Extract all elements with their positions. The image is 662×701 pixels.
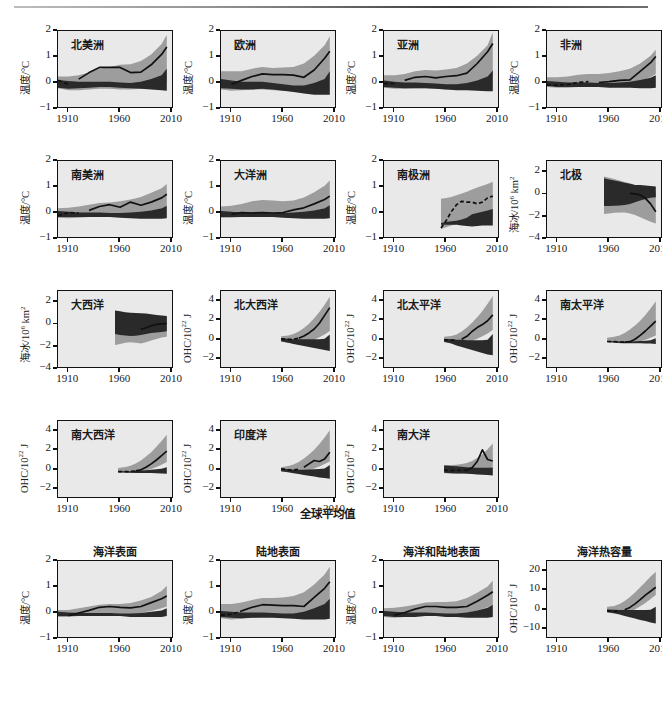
series-layer xyxy=(58,561,173,638)
y-tick-mark xyxy=(216,448,220,450)
y-tick-mark xyxy=(53,611,57,613)
series-layer xyxy=(547,561,662,638)
x-tick-label: 1910 xyxy=(371,372,415,384)
x-tick-label: 2010 xyxy=(475,242,519,254)
y-tick-mark xyxy=(379,55,383,57)
panel-title: 大洋洲 xyxy=(234,166,267,182)
y-tick-mark xyxy=(542,29,546,31)
y-tick-mark xyxy=(379,585,383,587)
y-tick-label: 4 xyxy=(512,292,540,304)
y-tick-mark xyxy=(216,29,220,31)
y-tick-mark xyxy=(216,81,220,83)
y-tick-mark xyxy=(216,487,220,489)
x-tick-label: 2010 xyxy=(475,372,519,384)
y-tick-mark xyxy=(379,107,383,109)
y-tick-label: 2 xyxy=(512,163,540,175)
x-tick-label: 1960 xyxy=(97,112,141,124)
y-tick-label: 1 xyxy=(349,578,377,590)
y-tick-label: 2 xyxy=(349,152,377,164)
panel-title: 北大西洋 xyxy=(234,296,278,312)
x-tick-label: 2010 xyxy=(638,372,662,384)
y-tick-label: −1 xyxy=(23,100,51,112)
y-tick-label: 20 xyxy=(512,562,540,574)
y-tick-mark xyxy=(379,487,383,489)
x-tick-label: 1960 xyxy=(586,372,630,384)
y-axis-label: 温度/°C xyxy=(343,191,358,225)
x-tick-label: 1960 xyxy=(97,242,141,254)
y-tick-mark xyxy=(379,429,383,431)
y-tick-mark xyxy=(379,237,383,239)
y-tick-label: 1 xyxy=(23,178,51,190)
y-tick-label: 2 xyxy=(23,152,51,164)
x-tick-label: 2010 xyxy=(149,112,193,124)
x-tick-label: 2010 xyxy=(149,502,193,514)
y-tick-mark xyxy=(542,608,546,610)
panel-title: 北极 xyxy=(560,166,582,182)
y-tick-mark xyxy=(542,318,546,320)
y-tick-label: 1 xyxy=(186,178,214,190)
y-axis-label: 温度/°C xyxy=(180,591,195,625)
y-tick-label: 2 xyxy=(186,22,214,34)
y-tick-mark xyxy=(53,323,57,325)
x-tick-label: 1910 xyxy=(45,502,89,514)
y-tick-label: −1 xyxy=(186,630,214,642)
series-layer xyxy=(221,561,336,638)
y-tick-mark xyxy=(53,55,57,57)
y-tick-label: 2 xyxy=(23,22,51,34)
x-tick-label: 1910 xyxy=(371,112,415,124)
y-axis-label: 温度/°C xyxy=(343,591,358,625)
y-axis-label: 温度/°C xyxy=(180,61,195,95)
natural-and-human-band xyxy=(118,435,167,473)
panel-title: 南美洲 xyxy=(71,166,104,182)
panel-title: 北美洲 xyxy=(71,36,104,52)
y-tick-label: 4 xyxy=(186,422,214,434)
y-tick-mark xyxy=(216,637,220,639)
plot-area xyxy=(57,560,173,638)
y-tick-mark xyxy=(379,81,383,83)
y-tick-mark xyxy=(53,559,57,561)
panel-title: 大西洋 xyxy=(71,296,104,312)
y-axis-label: 海冰/106 km2 xyxy=(17,307,32,363)
y-tick-mark xyxy=(379,357,383,359)
y-tick-mark xyxy=(53,367,57,369)
y-tick-label: −1 xyxy=(23,630,51,642)
x-tick-label: 1910 xyxy=(534,242,578,254)
y-tick-mark xyxy=(53,300,57,302)
x-tick-label: 2010 xyxy=(149,242,193,254)
x-tick-label: 2010 xyxy=(475,112,519,124)
panel-title: 亚洲 xyxy=(397,36,419,52)
x-tick-label: 1960 xyxy=(97,502,141,514)
y-tick-mark xyxy=(216,611,220,613)
y-tick-label: −1 xyxy=(23,230,51,242)
y-tick-label: −1 xyxy=(349,630,377,642)
y-tick-label: 2 xyxy=(23,293,51,305)
y-tick-label: −1 xyxy=(186,100,214,112)
y-tick-label: 1 xyxy=(186,48,214,60)
y-tick-mark xyxy=(379,299,383,301)
x-tick-label: 2010 xyxy=(475,502,519,514)
x-tick-label: 1910 xyxy=(45,112,89,124)
y-tick-label: 1 xyxy=(23,48,51,60)
x-tick-label: 1910 xyxy=(45,242,89,254)
y-axis-label: 温度/°C xyxy=(180,191,195,225)
y-tick-mark xyxy=(542,299,546,301)
natural-and-human-band xyxy=(444,296,493,344)
observed-line-dashed xyxy=(118,471,136,472)
y-tick-mark xyxy=(216,318,220,320)
y-tick-mark xyxy=(53,637,57,639)
panel-title: 印度洋 xyxy=(234,426,267,442)
y-tick-mark xyxy=(379,185,383,187)
y-tick-mark xyxy=(216,429,220,431)
y-axis-label: OHC/1022 J xyxy=(506,314,519,363)
x-tick-label: 1910 xyxy=(208,502,252,514)
x-tick-label: 2010 xyxy=(638,112,662,124)
plot-area xyxy=(383,560,499,638)
y-axis-label: OHC/1022 J xyxy=(17,444,30,493)
y-tick-label: −1 xyxy=(349,230,377,242)
y-axis-label: OHC/1022 J xyxy=(180,444,193,493)
y-tick-mark xyxy=(379,211,383,213)
plot-area xyxy=(220,560,336,638)
x-tick-label: 1910 xyxy=(208,112,252,124)
y-tick-label: 4 xyxy=(349,422,377,434)
y-tick-label: 1 xyxy=(23,578,51,590)
